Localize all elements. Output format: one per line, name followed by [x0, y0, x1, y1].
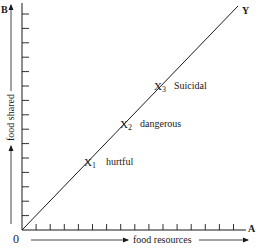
point-marker: X	[84, 156, 92, 168]
point-marker: X	[120, 118, 128, 130]
food-sharing-diagram: 0 A B Y food resources food shared X1 hu…	[0, 0, 259, 251]
x-axis-label: food resources	[133, 234, 192, 245]
point-label-hurtful: hurtful	[106, 156, 133, 167]
y-axis-label: food shared	[5, 94, 16, 141]
x-axis-ticks	[36, 224, 233, 230]
diagonal-end-label: Y	[242, 5, 250, 16]
diagonal-line-0Y	[22, 6, 238, 230]
origin-label: 0	[13, 232, 19, 246]
x-axis-end-label: A	[248, 223, 256, 234]
svg-text:X1: X1	[84, 156, 96, 170]
y-axis-end-label: B	[1, 4, 8, 15]
point-x3: X3 Suicidal	[154, 80, 207, 94]
svg-text:X2: X2	[120, 118, 132, 132]
point-subscript: 1	[92, 161, 96, 170]
point-label-suicidal: Suicidal	[174, 80, 207, 91]
y-axis-ticks	[22, 14, 29, 216]
point-subscript: 3	[162, 85, 166, 94]
point-label-dangerous: dangerous	[140, 118, 181, 129]
point-x2: X2 dangerous	[120, 118, 181, 132]
point-subscript: 2	[128, 123, 132, 132]
point-marker: X	[154, 80, 162, 92]
point-x1: X1 hurtful	[84, 156, 133, 170]
